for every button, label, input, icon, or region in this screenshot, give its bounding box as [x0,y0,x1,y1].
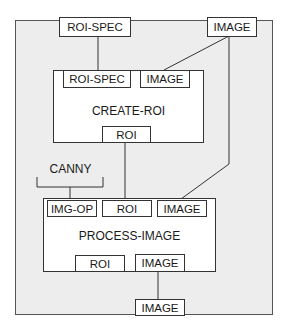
create-roi-input-image[interactable]: IMAGE [140,70,190,88]
process-image-title: PROCESS-IMAGE [44,229,215,243]
process-image-input-img-op[interactable]: IMG-OP [47,200,97,217]
outer-output-image[interactable]: IMAGE [135,299,185,316]
process-image-output-image[interactable]: IMAGE [135,254,185,272]
process-image-input-image[interactable]: IMAGE [157,200,207,217]
create-roi-input-roi-spec[interactable]: ROI-SPEC [63,70,131,88]
process-image-input-roi[interactable]: ROI [102,200,152,217]
canny-constant-label[interactable]: CANNY [37,162,104,176]
process-image-output-roi[interactable]: ROI [75,255,125,272]
outer-input-roi-spec[interactable]: ROI-SPEC [59,17,131,37]
create-roi-title: CREATE-ROI [54,104,203,118]
outer-input-image[interactable]: IMAGE [207,17,257,37]
create-roi-output-roi[interactable]: ROI [102,126,151,143]
